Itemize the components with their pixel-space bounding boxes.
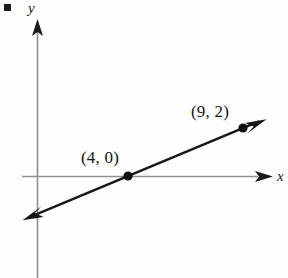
plotted-line <box>29 121 259 217</box>
plot-canvas <box>0 0 288 278</box>
y-axis-label: y <box>28 1 35 16</box>
data-point-9-2 <box>238 123 247 132</box>
point-label-9-2: (9, 2) <box>191 103 229 120</box>
coordinate-plane-figure: y x (4, 0) (9, 2) <box>0 0 288 278</box>
x-axis-label: x <box>277 169 284 184</box>
data-point-4-0 <box>123 171 132 180</box>
point-label-4-0: (4, 0) <box>81 149 119 166</box>
